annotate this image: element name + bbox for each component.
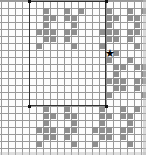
- grid-cell-filled[interactable]: [50, 134, 56, 140]
- grid-cell-filled[interactable]: [120, 106, 126, 112]
- grid-cell-filled[interactable]: [127, 113, 133, 119]
- grid-cell-filled[interactable]: [43, 113, 49, 119]
- grid-cell-filled[interactable]: [127, 57, 133, 63]
- grid-cell-filled[interactable]: [120, 127, 126, 133]
- grid-cell-filled[interactable]: [113, 64, 119, 70]
- grid-cell-filled[interactable]: [71, 127, 77, 133]
- grid-cell-filled[interactable]: [120, 113, 126, 119]
- grid-cell-filled[interactable]: [43, 106, 49, 112]
- pattern-grid-canvas[interactable]: ★: [0, 0, 146, 155]
- grid-cell-filled[interactable]: [127, 15, 133, 21]
- canvas-right-edge: [143, 0, 146, 155]
- handle-bottom-right[interactable]: [105, 105, 108, 108]
- grid-cell-filled[interactable]: [64, 113, 70, 119]
- grid-cell-filled[interactable]: [71, 120, 77, 126]
- grid-cell-filled[interactable]: [43, 127, 49, 133]
- grid-cell-filled[interactable]: [106, 8, 112, 14]
- grid-cell-filled[interactable]: [92, 127, 98, 133]
- grid-cell-filled[interactable]: [127, 120, 133, 126]
- grid-cell-filled[interactable]: [113, 15, 119, 21]
- grid-cell-filled[interactable]: [50, 127, 56, 133]
- grid-cell-filled[interactable]: [127, 36, 133, 42]
- grid-cell-filled[interactable]: [127, 141, 133, 147]
- grid-cell-filled[interactable]: [106, 113, 112, 119]
- grid-cell-filled[interactable]: [64, 127, 70, 133]
- handle-top-left[interactable]: [28, 0, 31, 3]
- star-marker[interactable]: ★: [105, 49, 114, 58]
- grid-cell-filled[interactable]: [99, 134, 105, 140]
- grid-cell-filled[interactable]: [127, 127, 133, 133]
- canvas-bottom-edge: [0, 152, 146, 155]
- grid-cell-filled[interactable]: [92, 141, 98, 147]
- grid-cell-filled[interactable]: [106, 22, 112, 28]
- grid-cell-filled[interactable]: [106, 29, 112, 35]
- grid-cell-filled[interactable]: [106, 15, 112, 21]
- grid-cell-filled[interactable]: [134, 78, 140, 84]
- grid-cell-filled[interactable]: [127, 8, 133, 14]
- grid-cell-filled[interactable]: [106, 78, 112, 84]
- grid-cell-filled[interactable]: [120, 85, 126, 91]
- grid-cell-filled[interactable]: [43, 134, 49, 140]
- handle-top-right[interactable]: [105, 0, 108, 3]
- grid-cell-filled[interactable]: [106, 127, 112, 133]
- grid-cell-filled[interactable]: [134, 43, 140, 49]
- grid-cell-filled[interactable]: [113, 85, 119, 91]
- selection-rectangle[interactable]: [29, 1, 106, 106]
- grid-cell-filled[interactable]: [127, 29, 133, 35]
- grid-cell-filled[interactable]: [113, 71, 119, 77]
- grid-cell-filled[interactable]: [43, 120, 49, 126]
- grid-cell-filled[interactable]: [71, 141, 77, 147]
- grid-cell-filled[interactable]: [106, 92, 112, 98]
- grid-cell-filled[interactable]: [134, 29, 140, 35]
- grid-cell-filled[interactable]: [120, 64, 126, 70]
- grid-cell-filled[interactable]: [36, 141, 42, 147]
- grid-cell-filled[interactable]: [113, 29, 119, 35]
- grid-cell-filled[interactable]: [99, 113, 105, 119]
- grid-cell-filled[interactable]: [36, 127, 42, 133]
- grid-cell-filled[interactable]: [99, 127, 105, 133]
- grid-cell-filled[interactable]: [120, 134, 126, 140]
- grid-cell-filled[interactable]: [113, 36, 119, 42]
- grid-cell-filled[interactable]: [134, 85, 140, 91]
- grid-cell-filled[interactable]: [113, 78, 119, 84]
- grid-cell-filled[interactable]: [99, 120, 105, 126]
- grid-cell-filled[interactable]: [134, 22, 140, 28]
- handle-bottom-left[interactable]: [28, 105, 31, 108]
- grid-cell-filled[interactable]: [64, 134, 70, 140]
- grid-cell-filled[interactable]: [106, 134, 112, 140]
- grid-cell-filled[interactable]: [134, 15, 140, 21]
- grid-cell-filled[interactable]: [50, 113, 56, 119]
- grid-cell-filled[interactable]: [134, 64, 140, 70]
- grid-cell-filled[interactable]: [134, 106, 140, 112]
- grid-cell-filled[interactable]: [64, 106, 70, 112]
- grid-cell-filled[interactable]: [71, 113, 77, 119]
- grid-cell-filled[interactable]: [106, 36, 112, 42]
- grid-cell-filled[interactable]: [120, 78, 126, 84]
